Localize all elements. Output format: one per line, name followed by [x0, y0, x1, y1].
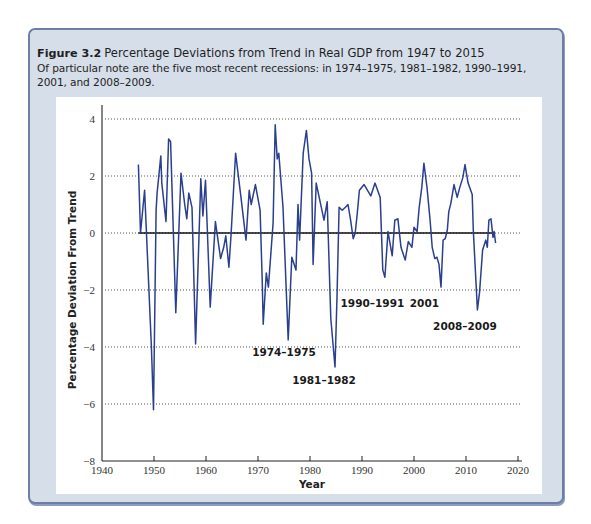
- x-tick-label: 1970: [247, 464, 270, 476]
- x-tick-label: 1960: [195, 464, 218, 476]
- y-axis-title: Percentage Deviation From Trend: [66, 191, 78, 389]
- x-tick-label: 1940: [91, 464, 114, 476]
- axes: [102, 105, 522, 461]
- x-tick-label: 1990: [351, 464, 374, 476]
- y-tick-label: 2: [90, 170, 96, 182]
- x-tick-label: 1980: [299, 464, 322, 476]
- recession-label: 1990–1991: [341, 297, 405, 309]
- y-tick-label: 0: [90, 227, 96, 239]
- x-tick-label: 1950: [143, 464, 166, 476]
- recession-label: 2008–2009: [433, 320, 497, 332]
- y-tick-label: −4: [83, 341, 95, 353]
- x-tick-label: 2020: [507, 464, 530, 476]
- x-tick-label: 2000: [403, 464, 426, 476]
- y-tick-label: −6: [83, 398, 95, 410]
- x-axis-title: Year: [298, 478, 326, 490]
- line-chart: −8−6−4−202419401950196019701980199020002…: [0, 0, 591, 524]
- recession-label: 1981–1982: [292, 374, 356, 386]
- x-tick-label: 2010: [455, 464, 478, 476]
- y-tick-label: 4: [90, 113, 96, 125]
- tick-labels: −8−6−4−202419401950196019701980199020002…: [83, 113, 529, 476]
- y-tick-label: −2: [83, 284, 95, 296]
- recession-label: 2001: [410, 297, 439, 309]
- recession-label: 1974–1975: [252, 346, 316, 358]
- gdp-deviation-line: [138, 125, 495, 410]
